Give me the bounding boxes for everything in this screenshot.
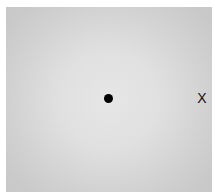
target-x-marker: X bbox=[195, 89, 209, 107]
fixation-dot-icon bbox=[104, 94, 113, 103]
figure: X bbox=[0, 0, 215, 195]
